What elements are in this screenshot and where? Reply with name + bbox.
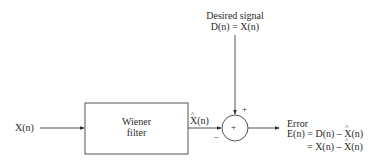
- summer-symbol: +: [231, 122, 236, 133]
- plus-sign: +: [242, 104, 247, 115]
- diagram-canvas: [0, 0, 384, 164]
- filter-output-label: X(n): [190, 115, 209, 126]
- desired-signal-label: Desired signal: [195, 10, 275, 21]
- minus-sign: –: [214, 131, 219, 142]
- error-equation-1: E(n) = D(n) – X(n): [287, 128, 363, 139]
- filter-label-line1: Wiener: [85, 116, 188, 127]
- input-label: X(n): [15, 122, 34, 133]
- filter-label-line2: filter: [85, 127, 188, 138]
- desired-signal-equation: D(n) = X(n): [195, 21, 275, 32]
- error-equation-2: = X(n) – X(n): [307, 141, 363, 152]
